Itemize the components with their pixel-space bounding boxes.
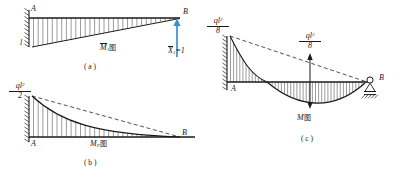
m-symbol: M xyxy=(297,113,304,122)
diagram-label-b: MP图 xyxy=(90,140,107,149)
ordinate-label-c-mid: ql2 8 xyxy=(299,32,321,50)
ordinate-c-mid-numerator: ql2 xyxy=(299,32,321,41)
ordinate-c-left-numerator: ql2 xyxy=(207,17,229,26)
node-label-c-right: B xyxy=(379,74,384,82)
ordinate-b-denominator: 2 xyxy=(9,91,31,100)
dashed-chord-b xyxy=(32,96,180,137)
diagram-label-c: M图 xyxy=(297,114,311,122)
mp-symbol: M xyxy=(90,139,97,148)
moment-hatch-c-hogging xyxy=(231,28,265,88)
caption-c: ( c ) xyxy=(301,134,313,143)
node-label-b-right: B xyxy=(182,129,187,137)
moment-hatch-b xyxy=(34,88,175,142)
unit-force-label: X1=1 xyxy=(168,47,185,56)
tu-char-b: 图 xyxy=(100,140,107,148)
ordinate-b-numerator: ql2 xyxy=(9,82,31,91)
panel-c: ql2 8 ql2 8 A B M图 ( c ) xyxy=(205,14,410,184)
pin-roller-support-c xyxy=(362,77,378,99)
tu-char-c: 图 xyxy=(304,114,311,122)
tu-char-a: 图 xyxy=(109,44,116,52)
fixed-support-c xyxy=(223,35,228,90)
caption-b: ( b ) xyxy=(84,158,97,167)
x1-value: =1 xyxy=(175,46,184,55)
moment-curve-c xyxy=(230,36,365,103)
panel-a: A B l M1图 X1=1 ( a ) xyxy=(0,0,205,80)
ordinate-label-c-left: ql2 8 xyxy=(207,17,229,35)
diagram-label-a: M1图 xyxy=(100,44,116,53)
midspan-ordinate-arrow xyxy=(307,53,312,109)
node-label-a-left: A xyxy=(31,5,36,13)
node-label-a-right: B xyxy=(183,8,188,16)
panel-b: ql2 2 A B MP图 ( b ) xyxy=(0,80,205,184)
ordinate-label-b: ql2 2 xyxy=(9,82,31,100)
m1-bar-symbol: M xyxy=(100,44,107,52)
node-label-c-left: A xyxy=(231,85,236,93)
fixed-support-a xyxy=(25,9,30,48)
ordinate-c-mid-denominator: 8 xyxy=(299,41,321,50)
ordinate-c-left-denominator: 8 xyxy=(207,26,229,35)
span-length-label-a: l xyxy=(20,39,22,47)
caption-a: ( a ) xyxy=(84,62,96,71)
fixed-support-b xyxy=(25,95,30,142)
node-label-b-left: A xyxy=(31,140,36,148)
x1-bar-symbol: X xyxy=(168,47,173,55)
